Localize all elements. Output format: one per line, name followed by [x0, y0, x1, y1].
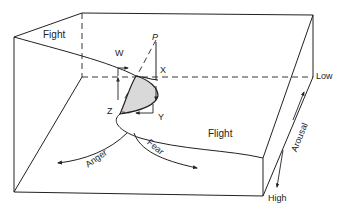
label-low: Low [316, 72, 333, 81]
label-p: P [152, 33, 158, 42]
label-high: High [268, 194, 287, 203]
label-flight: Flight [208, 129, 232, 139]
label-w: W [115, 49, 124, 58]
fold-region [120, 76, 158, 114]
box-outline [14, 13, 313, 196]
cusp-catastrophe-diagram: Fight Flight W X Z Y P Anger Fear Arousa… [0, 0, 345, 210]
label-fight: Fight [43, 30, 65, 40]
label-z: Z [107, 107, 113, 116]
label-y: Y [158, 113, 164, 122]
label-x: X [160, 66, 166, 75]
